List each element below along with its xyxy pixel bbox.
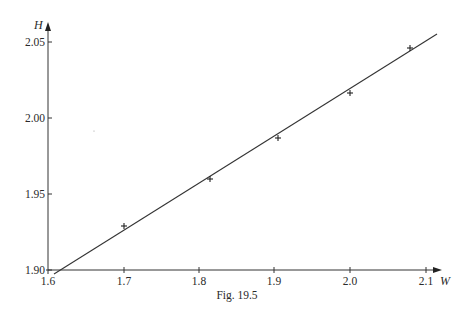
x-tick-label: 1.8: [192, 275, 207, 287]
x-tick-label: 1.7: [117, 275, 132, 287]
x-tick-label: 1.6: [41, 275, 56, 287]
data-point: [121, 223, 127, 229]
data-point: [347, 90, 353, 96]
x-axis-arrow-icon: [433, 267, 442, 273]
y-tick-label: 1.95: [25, 188, 45, 200]
y-tick-label: 2.05: [25, 36, 45, 48]
chart-canvas: 2.05 2.00 1.95 1.90 1.6 1.7 1.8 1.9 2.0 …: [0, 0, 474, 319]
y-tick-label: 2.00: [25, 112, 45, 124]
x-tick-label: 1.9: [267, 275, 282, 287]
x-tick-label: 2.0: [343, 275, 358, 287]
y-axis-arrow-icon: [45, 22, 51, 31]
speck: [93, 130, 94, 131]
figure-caption: Fig. 19.5: [0, 289, 474, 301]
data-point: [207, 176, 213, 182]
data-point: [275, 135, 281, 141]
fit-line: [54, 34, 437, 274]
x-axis-label: W: [440, 274, 451, 288]
x-tick-label: 2.1: [419, 275, 434, 287]
data-points: [121, 45, 413, 229]
y-axis-label: H: [33, 18, 44, 32]
